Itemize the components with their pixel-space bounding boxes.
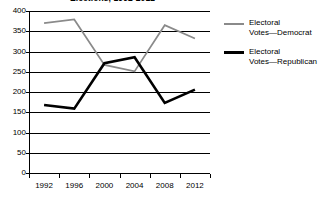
legend-item-democrat: Electoral Votes—Democrat xyxy=(224,18,334,38)
x-axis-tick-label: 1992 xyxy=(29,181,59,190)
x-axis-tick-mark xyxy=(89,174,90,178)
y-axis-tick-mark xyxy=(26,112,29,113)
x-axis-tick-label: 2008 xyxy=(150,181,180,190)
y-axis-tick-mark xyxy=(26,92,29,93)
legend-swatch-republican-icon xyxy=(224,51,244,54)
x-axis-tick-mark xyxy=(120,174,121,178)
line-chart: Elections, 1992-2012 0501001502002503003… xyxy=(0,0,334,203)
x-axis-tick-label: 2004 xyxy=(120,181,150,190)
x-axis-tick-mark xyxy=(180,174,181,178)
y-axis-tick-mark xyxy=(26,72,29,73)
series-line xyxy=(44,20,195,72)
x-axis-tick-label: 2000 xyxy=(89,181,119,190)
y-axis-tick-mark xyxy=(26,133,29,134)
y-axis-tick-mark xyxy=(26,153,29,154)
x-axis-tick-mark xyxy=(150,174,151,178)
legend-item-republican: Electoral Votes—Republican xyxy=(224,47,334,67)
y-axis-tick-mark xyxy=(26,31,29,32)
x-axis-tick-label: 1996 xyxy=(59,181,89,190)
legend-swatch-democrat-icon xyxy=(224,23,244,25)
x-axis-tick-mark xyxy=(29,174,30,178)
legend-label-republican: Electoral Votes—Republican xyxy=(249,47,317,67)
legend-label-democrat: Electoral Votes—Democrat xyxy=(249,18,312,38)
chart-legend: Electoral Votes—Democrat Electoral Votes… xyxy=(224,18,334,76)
x-axis-tick-mark xyxy=(210,174,211,178)
y-axis-tick-mark xyxy=(26,11,29,12)
x-axis-tick-mark xyxy=(59,174,60,178)
series-line xyxy=(44,57,195,108)
x-axis-tick-label: 2012 xyxy=(180,181,210,190)
y-axis-tick-mark xyxy=(26,52,29,53)
